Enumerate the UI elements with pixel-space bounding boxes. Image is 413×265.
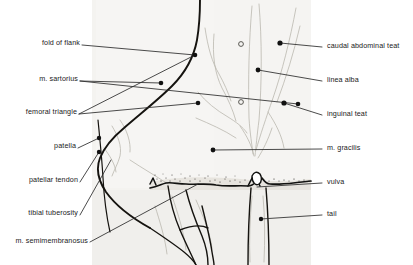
label-m-semimembranosus: m. semimembranosus [0, 236, 88, 245]
label-tail: tail [327, 209, 337, 218]
label-fold-of-flank: fold of flank [0, 38, 80, 47]
label-inguinal-teat: inguinal teat [327, 109, 367, 118]
dot-m-sartorius [159, 81, 164, 86]
dot-m-sartorius-end [296, 102, 301, 107]
label-vulva: vulva [327, 177, 344, 186]
dot-tail [259, 217, 263, 221]
vulva-outline [252, 172, 261, 184]
label-tibial-tuberosity: tibial tuberosity [0, 208, 78, 217]
label-m-gracilis: m. gracilis [327, 143, 360, 152]
label-femoral-triangle: femoral triangle [0, 107, 77, 116]
dot-linea-alba [256, 68, 261, 73]
dot-patella-lower [97, 150, 101, 154]
dot-inguinal-teat [281, 100, 286, 105]
label-patellar-tendon: patellar tendon [0, 175, 78, 184]
label-caudal-abdominal-teat: caudal abdominal teat [327, 41, 399, 50]
label-m-sartorius: m. sartorius [0, 74, 78, 83]
dot-fold-of-flank [193, 53, 198, 58]
anatomical-figure: fold of flank m. sartorius femoral trian… [0, 0, 413, 265]
dot-femoral-triangle [196, 101, 201, 106]
label-patella: patella [0, 141, 76, 150]
label-linea-alba: linea alba [327, 75, 359, 84]
dot-m-gracilis [211, 148, 216, 153]
dot-patella-upper [97, 136, 101, 140]
dot-caudal-abdominal-teat [277, 40, 282, 45]
